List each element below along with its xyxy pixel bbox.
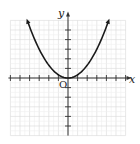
- origin-label: O: [59, 79, 67, 90]
- y-axis-label: y: [57, 7, 65, 20]
- parabola-graph: x y O: [0, 0, 140, 144]
- x-axis-label: x: [129, 73, 136, 86]
